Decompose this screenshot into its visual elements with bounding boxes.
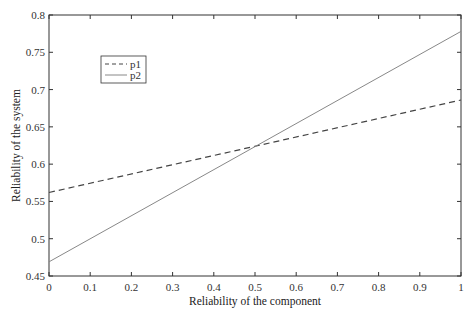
x-tick-label: 0.4 (207, 281, 221, 293)
x-tick-label: 0.1 (83, 281, 97, 293)
y-tick-label: 0.45 (26, 270, 46, 282)
chart: 00.10.20.30.40.50.60.70.80.910.450.50.55… (0, 0, 474, 317)
legend-label-p2: p2 (130, 69, 141, 81)
plot-frame (49, 15, 461, 276)
x-tick-label: 0.8 (372, 281, 386, 293)
x-tick-label: 0.2 (125, 281, 139, 293)
y-axis-label: Reliability of the system (10, 89, 23, 202)
y-tick-label: 0.7 (31, 84, 45, 96)
y-tick-label: 0.5 (31, 233, 45, 245)
x-tick-label: 0.6 (289, 281, 303, 293)
x-tick-label: 0.7 (331, 281, 345, 293)
y-tick-label: 0.75 (26, 46, 46, 58)
x-tick-label: 0.9 (413, 281, 427, 293)
x-tick-label: 0.3 (166, 281, 180, 293)
y-tick-label: 0.65 (26, 121, 46, 133)
x-tick-label: 0 (46, 281, 52, 293)
x-tick-label: 1 (458, 281, 464, 293)
x-tick-label: 0.5 (248, 281, 262, 293)
y-tick-label: 0.8 (31, 9, 45, 21)
x-axis-label: Reliability of the component (189, 295, 322, 308)
y-tick-label: 0.55 (26, 195, 46, 207)
y-tick-label: 0.6 (31, 158, 45, 170)
